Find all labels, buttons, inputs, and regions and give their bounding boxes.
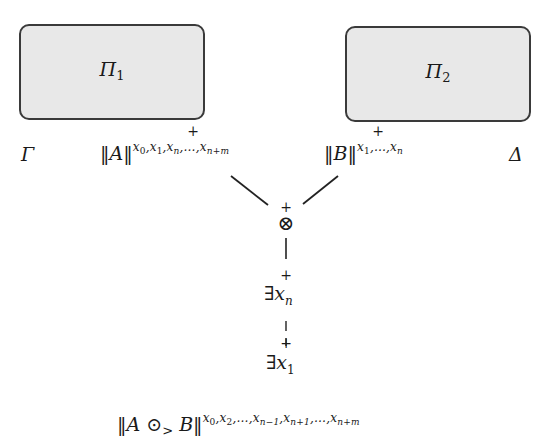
tensor-node: ⊗ xyxy=(276,213,296,233)
conclusion-formula: ‖A ⊙> B‖x0,x2,…,xn−1,xn+1,…,xn+m xyxy=(117,413,360,438)
conclusion-superscript: x0,x2,…,xn−1,xn+1,…,xn+m xyxy=(203,411,360,425)
context-delta: Δ xyxy=(509,143,523,165)
left-premise-mark: + xyxy=(186,124,200,138)
left-premise-formula: ‖A‖x0,x1,xn,…,xn+m xyxy=(100,142,229,165)
left-premise-superscript: x0,x1,xn,…,xn+m xyxy=(133,140,230,154)
right-premise-formula: ‖B‖x1,…,xn xyxy=(324,142,403,165)
right-premise-superscript: x1,…,xn xyxy=(357,140,403,154)
exists-x1-node: ∃x1 xyxy=(266,351,295,377)
edge-right-premise-to-tensor xyxy=(303,176,338,204)
proof-box-pi2: Π2 xyxy=(345,26,531,122)
exists-xn-node: ∃xn xyxy=(264,282,293,308)
exists-n-mark: + xyxy=(279,268,293,282)
edge-left-premise-to-tensor xyxy=(231,176,268,205)
context-gamma: Γ xyxy=(21,143,34,165)
exists-1-mark: + xyxy=(279,336,293,350)
proof-box-pi1-label: Π1 xyxy=(21,58,203,83)
proof-box-pi1: Π1 xyxy=(19,24,205,120)
right-premise-mark: + xyxy=(371,124,385,138)
cotensor-operator: ⊙ xyxy=(146,413,162,435)
proof-box-pi2-label: Π2 xyxy=(347,60,529,85)
